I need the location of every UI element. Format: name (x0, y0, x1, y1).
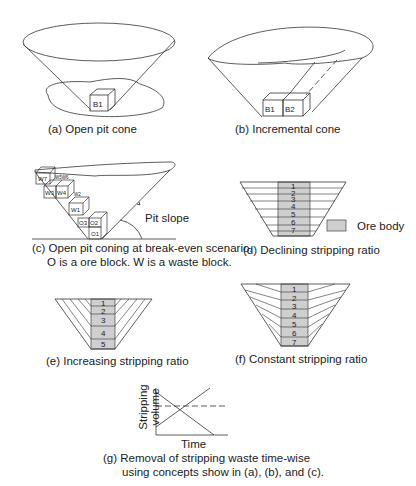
block-b1-label: B1 (265, 105, 275, 114)
caption-c-line2: O is a ore block. W is a waste block. (47, 255, 232, 269)
panel-c-break-even: W7 W5W6 W3 W4 W2 W1 O3 O2 O1 (32, 162, 176, 239)
caption-d: (d) Declining stripping ratio (243, 243, 380, 257)
level-e-5: 5 (101, 338, 105, 352)
blocks-b1-b2: B1 B2 (263, 93, 310, 116)
series-increasing (156, 388, 210, 427)
block-o2-label: O2 (90, 220, 99, 226)
chart-xlabel: Time (181, 437, 206, 451)
level-e-3: 3 (101, 314, 105, 328)
chart-ylabel-line2: volume (148, 388, 162, 425)
block-w2-label: W2 (74, 192, 81, 197)
caption-c-line1: (c) Open pit coning at break-even scenar… (32, 241, 253, 255)
block-w7-label: W7 (38, 176, 48, 182)
block-o1-label: O1 (91, 231, 100, 237)
level-d-7: 7 (291, 224, 295, 238)
level-f-7: 7 (292, 336, 296, 350)
caption-a: (a) Open pit cone (48, 122, 137, 136)
caption-g-line1: (g) Removal of stripping waste time-wise (103, 451, 310, 465)
pit-rim-ellipse (23, 23, 175, 61)
block-o3-label: O3 (79, 220, 88, 226)
caption-g-line2: using concepts show in (a), (b), and (c)… (122, 465, 324, 479)
block-b2-label: B2 (285, 105, 295, 114)
series-declining (156, 392, 214, 435)
panel-b-incremental-cone: B1 B2 (208, 27, 373, 117)
block-b1-label: B1 (93, 100, 103, 109)
caption-b: (b) Incremental cone (235, 122, 340, 136)
caption-e: (e) Increasing stripping ratio (46, 354, 189, 368)
block-w1-label: W1 (71, 207, 81, 213)
block-w5-w6-label: W5W6 (55, 175, 69, 180)
legend-ore-swatch (327, 220, 346, 231)
block-w3-label: W3 (45, 190, 55, 196)
caption-f: (f) Constant stripping ratio (235, 352, 367, 366)
legend-ore-body-label: Ore body (357, 219, 404, 233)
pit-slope-label: Pit slope (145, 211, 189, 225)
block-b1: B1 (90, 89, 115, 111)
panel-g-chart (156, 388, 228, 435)
block-w4-label: W4 (57, 190, 67, 196)
panel-a-open-pit-cone: B1 (23, 23, 175, 117)
